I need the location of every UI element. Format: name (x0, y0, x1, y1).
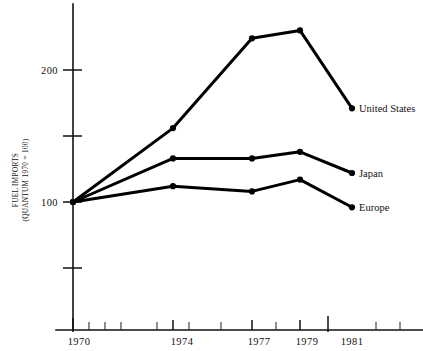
y-tick-label-200: 200 (41, 65, 58, 76)
y-tick-label-100: 100 (41, 197, 58, 208)
y-axis-title: FUEL IMPORTS (QUANTUM 1970 = 100) (12, 138, 30, 221)
y-axis-title-line2: (QUANTUM 1970 = 100) (22, 138, 30, 221)
series-label-united-states: United States (359, 103, 415, 114)
data-point (249, 35, 255, 41)
y-axis-title-line1: FUEL IMPORTS (12, 153, 20, 207)
data-point (297, 149, 303, 155)
x-tick-label-1970: 1970 (68, 336, 91, 347)
series-europe (70, 177, 355, 211)
data-point (249, 155, 255, 161)
data-point (170, 125, 176, 131)
series-line-united-states (73, 30, 352, 202)
series-label-europe: Europe (359, 202, 390, 213)
fuel-imports-line-chart: 200 100 FUEL IMPORTS (QUANTUM 1970 = 100… (0, 0, 423, 351)
series-points-europe (70, 177, 355, 211)
series-united-states (70, 27, 355, 205)
data-point (297, 27, 303, 33)
data-point (349, 105, 355, 111)
data-point (170, 183, 176, 189)
x-tick-label-1974: 1974 (171, 336, 194, 347)
data-point (249, 188, 255, 194)
x-tick-label-1981: 1981 (341, 336, 364, 347)
chart-page: 200 100 FUEL IMPORTS (QUANTUM 1970 = 100… (0, 0, 423, 351)
data-point (297, 177, 303, 183)
x-tick-label-1977: 1977 (248, 336, 271, 347)
series-points-united-states (70, 27, 355, 205)
x-minor-ticks-group (89, 322, 400, 330)
data-point (349, 170, 355, 176)
data-point (70, 199, 76, 205)
data-point (349, 204, 355, 210)
x-tick-label-1979: 1979 (296, 336, 319, 347)
series-label-japan: Japan (359, 168, 384, 179)
data-point (170, 155, 176, 161)
